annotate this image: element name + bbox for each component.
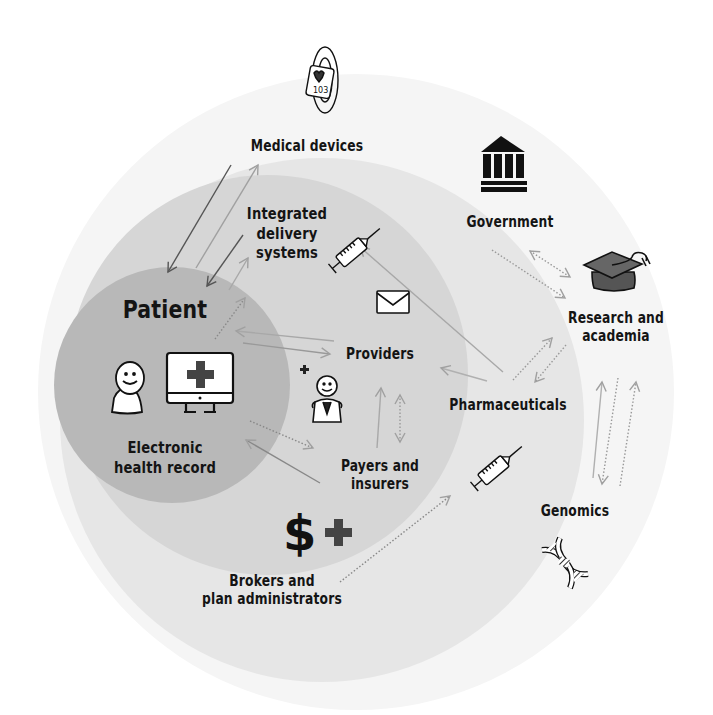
- label-text: Medical devices: [251, 137, 363, 155]
- label-line: Integrated: [246, 204, 328, 224]
- label-brokers: Brokers and plan administrators: [190, 572, 354, 609]
- label-pharmaceuticals: Pharmaceuticals: [442, 396, 573, 414]
- label-payers: Payers and insurers: [331, 457, 429, 494]
- monitor-medical-icon: [167, 353, 233, 412]
- label-research: Research and academia: [567, 309, 665, 346]
- label-text: Providers: [346, 345, 414, 363]
- envelope-icon: [377, 291, 409, 313]
- label-genomics: Genomics: [538, 502, 612, 520]
- dollar-sign: $: [283, 505, 316, 561]
- label-text: Patient: [123, 295, 208, 324]
- label-medical-devices: Medical devices: [246, 137, 369, 155]
- label-patient: Patient: [116, 295, 214, 326]
- label-line: plan administrators: [190, 590, 354, 608]
- label-line: Electronic: [112, 438, 219, 458]
- label-text: Pharmaceuticals: [449, 396, 566, 414]
- label-providers: Providers: [339, 345, 421, 363]
- label-line: health record: [112, 458, 219, 478]
- label-line: Payers and: [331, 457, 429, 475]
- label-government: Government: [465, 213, 555, 231]
- label-line: systems: [246, 243, 328, 263]
- label-text: Government: [466, 213, 553, 231]
- label-line: Research and: [567, 309, 665, 327]
- label-integrated-delivery: Integrated delivery systems: [246, 204, 328, 263]
- label-ehr: Electronic health record: [112, 438, 219, 477]
- label-line: Brokers and: [190, 572, 354, 590]
- label-text: Genomics: [541, 502, 610, 520]
- label-line: insurers: [331, 475, 429, 493]
- label-line: delivery: [246, 224, 328, 244]
- device-readout: 103: [313, 86, 328, 95]
- label-line: academia: [567, 327, 665, 345]
